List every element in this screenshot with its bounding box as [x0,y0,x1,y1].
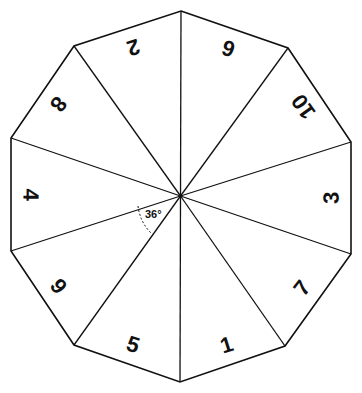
spoke-line [181,196,286,346]
spoke-line [180,196,181,382]
sector-number: 5 [123,331,142,359]
spoke-line [74,46,181,196]
sector-number: 7 [288,276,315,301]
angle-label: 36° [145,208,162,220]
sector-number: 8 [45,92,72,117]
sector-number: 3 [318,191,343,204]
sector-number: 9 [45,274,72,299]
spoke-line [11,138,181,196]
sector-number: 1 [217,331,236,359]
spoke-line [11,196,181,251]
sector-number: 4 [18,188,43,201]
spoke-line [181,11,182,196]
sector-number: 10 [286,90,321,125]
sector-number: 2 [124,34,143,62]
spoke-line [181,142,352,196]
decagon-diagram: 61037159482 36° [0,0,362,393]
spoke-line [181,48,289,196]
spoke-line [74,196,181,345]
sector-number: 6 [219,35,238,63]
